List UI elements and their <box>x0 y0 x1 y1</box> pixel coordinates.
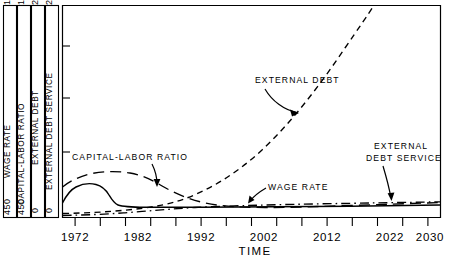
y-axis-ticks <box>63 46 71 152</box>
axis-title-wage-rate: WAGE RATE <box>3 124 12 178</box>
x-axis-ticks <box>75 218 428 227</box>
axis-title-external-debt-service: EXTERNAL DEBT SERVICE <box>45 72 54 190</box>
annotation-capital-labor-ratio: CAPITAL-LABOR RATIO <box>72 152 188 162</box>
axis-max-external-debt: 200 B <box>30 0 40 5</box>
axis-min-wage-rate: 450 <box>2 198 12 215</box>
axis-title-external-debt: EXTERNAL DEBT <box>31 90 40 165</box>
annotation-external-debt-service-line2: DEBT SERVICE <box>366 153 442 163</box>
axis-max-capital-labor-ratio: 1300 <box>16 0 26 5</box>
annotation-wage-rate: WAGE RATE <box>268 182 329 192</box>
chart-svg: 1300 WAGE RATE 450 1300 CAPITAL-LABOR RA… <box>0 0 452 257</box>
annotation-external-debt: EXTERNAL DEBT <box>255 75 340 85</box>
axis-max-wage-rate: 1300 <box>2 0 12 5</box>
axis-max-external-debt-service: 20 B <box>44 0 54 5</box>
x-tick-label-1: 1982 <box>124 231 152 243</box>
plot-frame <box>63 6 441 218</box>
x-tick-label-6: 2030 <box>416 231 444 243</box>
x-tick-label-0: 1972 <box>61 231 89 243</box>
axis-column-frame-wage-rate <box>4 6 17 218</box>
x-tick-label-2: 1992 <box>187 231 215 243</box>
axis-title-capital-labor-ratio: CAPITAL-LABOR RATIO <box>17 103 26 205</box>
x-tick-label-4: 2012 <box>313 231 341 243</box>
x-tick-label-3: 2002 <box>250 231 278 243</box>
axis-min-external-debt-service: 0 <box>44 207 54 213</box>
annotation-arrowhead-external-debt-service <box>388 193 395 201</box>
axis-min-capital-labor-ratio: 450 <box>16 198 26 215</box>
axis-min-external-debt: 0 <box>30 207 40 213</box>
annotation-arrowhead-capital-labor-ratio <box>154 179 161 187</box>
annotation-external-debt-service-line1: EXTERNAL <box>374 141 428 151</box>
x-tick-label-5: 2022 <box>376 231 404 243</box>
annotation-arrow-external-debt <box>265 89 297 113</box>
chart-figure: 1300 WAGE RATE 450 1300 CAPITAL-LABOR RA… <box>0 0 452 257</box>
x-axis-title: TIME <box>238 245 271 257</box>
